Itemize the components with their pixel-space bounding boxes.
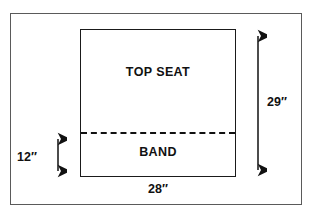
dimension-label-height-total: 29″ [267,95,287,109]
region-label-band: BAND [80,145,236,159]
dimension-arrow-height-band [49,130,67,180]
dimension-label-height-band: 12″ [17,150,37,164]
figure-canvas: TOP SEAT BAND 29″ 12″ 28″ [0,0,312,218]
region-label-top-seat: TOP SEAT [80,65,236,79]
seat-band-divider-dashed-line [81,132,235,134]
dimension-arrow-height-total [249,26,267,180]
dimension-label-width-total: 28″ [80,182,236,196]
